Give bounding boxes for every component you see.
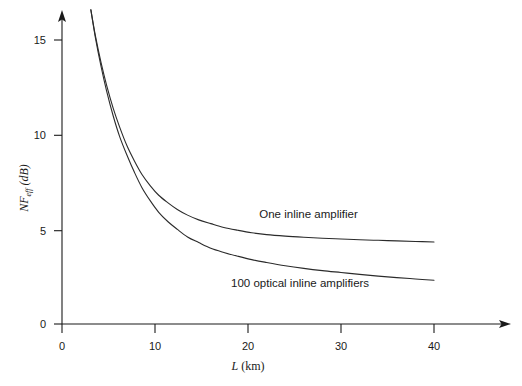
y-axis-title-main: NF [17,196,31,213]
series-line-100-optical-inline-amplifiers [91,10,434,281]
y-axis-title: NFeff (dB) [17,164,33,213]
svg-text:NFeff (dB): NFeff (dB) [17,164,33,213]
x-axis-tick-labels: 0 10 20 30 40 [59,340,440,352]
x-tick-label-10: 10 [149,340,161,352]
y-axis-title-unit: (dB) [17,164,31,185]
svg-text:L (km): L (km) [230,359,264,373]
x-tick-label-40: 40 [428,340,440,352]
y-tick-label-0: 0 [40,318,46,330]
noise-figure-chart: 0 5 10 15 0 10 20 30 40 L (km) NFeff (dB… [0,0,522,386]
x-tick-label-0: 0 [59,340,65,352]
x-axis-title-unit: (km) [241,359,264,373]
x-tick-label-30: 30 [335,340,347,352]
chart-series-group [91,10,434,281]
y-tick-label-10: 10 [34,129,46,141]
series-label-100-optical-inline-amplifiers: 100 optical inline amplifiers [231,277,369,289]
chart-series-labels: One inline amplifier 100 optical inline … [231,208,369,289]
y-axis-ticks [54,40,62,324]
series-label-one-inline-amplifier: One inline amplifier [259,208,358,220]
y-tick-label-5: 5 [40,225,46,237]
x-tick-label-20: 20 [242,340,254,352]
y-tick-label-15: 15 [34,34,46,46]
y-axis-tick-labels: 0 5 10 15 [34,34,46,330]
x-axis-ticks [62,324,434,333]
x-axis-title: L (km) [230,359,264,373]
